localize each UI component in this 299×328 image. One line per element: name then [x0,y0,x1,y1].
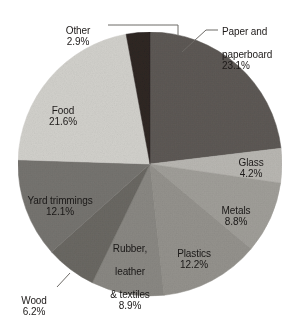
slice-label-yard-trimmings-name: Yard trimmings [27,195,92,206]
slice-label-paper-line2: paperboard [222,49,272,60]
slice-label-other-pct: 2.9% [48,36,108,48]
slice-label-metals-pct: 8.8% [206,216,266,228]
slice-label-food-name: Food [52,105,74,116]
slice-label-glass-name: Glass [238,157,263,168]
slice-label-wood: Wood 6.2% [10,283,58,328]
slice-label-metals-name: Metals [222,205,251,216]
slice-label-rubber-line1: Rubber, [113,243,147,254]
slice-label-glass: Glass 4.2% [222,145,280,191]
slice-label-rubber: Rubber, leather & textiles 8.9% [95,231,165,323]
slice-label-plastics-name: Plastics [177,248,211,259]
slice-label-food-pct: 21.6% [28,116,98,128]
slice-label-wood-name: Wood [21,295,47,306]
slice-label-paper-pct: 23.1% [222,60,294,72]
slice-label-rubber-line2: leather [115,266,145,277]
slice-label-other: Other 2.9% [48,13,108,59]
slice-label-metals: Metals 8.8% [206,193,266,239]
slice-label-yard-trimmings: Yard trimmings 12.1% [8,183,112,229]
slice-label-paper: Paper and paperboard 23.1% [222,14,294,83]
slice-label-other-name: Other [66,25,91,36]
slice-label-paper-line1: Paper and [222,26,267,37]
slice-label-rubber-pct: 8.9% [95,300,165,312]
slice-label-plastics-pct: 12.2% [163,259,225,271]
slice-label-rubber-line3: & textiles [110,289,150,300]
slice-label-yard-trimmings-pct: 12.1% [8,206,112,218]
leader-line-wood [57,273,70,287]
slice-label-glass-pct: 4.2% [222,168,280,180]
slice-label-wood-pct: 6.2% [10,306,58,318]
pie-chart: Other 2.9% Paper and paperboard 23.1% Gl… [0,0,299,328]
slice-label-plastics: Plastics 12.2% [163,236,225,282]
slice-label-food: Food 21.6% [28,93,98,139]
